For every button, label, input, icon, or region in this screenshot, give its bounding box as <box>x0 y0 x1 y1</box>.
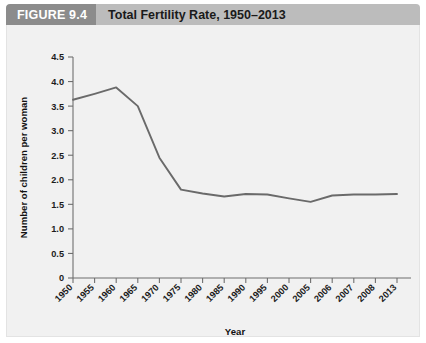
y-tick-label: 2.0 <box>51 175 64 185</box>
x-tick-label: 1990 <box>226 282 248 304</box>
y-axis-title: Number of children per woman <box>18 97 29 238</box>
y-tick-label: 3.5 <box>51 102 64 112</box>
figure-title: Total Fertility Rate, 1950–2013 <box>96 8 286 22</box>
x-tick-label: 1995 <box>247 282 269 304</box>
y-tick-label: 4.0 <box>51 77 64 87</box>
y-tick-label: 0 <box>59 273 64 283</box>
x-tick-label: 2006 <box>312 282 334 304</box>
x-tick-label: 2000 <box>269 282 291 304</box>
figure-header-bar: FIGURE 9.4 Total Fertility Rate, 1950–20… <box>6 4 420 25</box>
y-tick-label: 3.0 <box>51 126 64 136</box>
y-tick-label: 2.5 <box>51 151 64 161</box>
x-tick-label: 2007 <box>334 282 356 304</box>
y-tick-label: 1.5 <box>51 200 64 210</box>
x-tick-label: 1960 <box>96 282 118 304</box>
x-tick-label: 1950 <box>53 282 75 304</box>
x-axis-title: Year <box>225 326 246 337</box>
figure-body: 00.51.01.52.02.53.03.54.04.5 19501955196… <box>6 25 420 337</box>
x-tick-label: 2008 <box>355 282 377 304</box>
data-line-total-fertility-rate <box>73 87 397 201</box>
x-tick-label: 1965 <box>118 282 140 304</box>
x-tick-label: 1970 <box>139 282 161 304</box>
x-tick-label: 2005 <box>290 282 312 304</box>
y-tick-label: 0.5 <box>51 249 64 259</box>
x-tick-label: 2013 <box>377 282 399 304</box>
x-tick-label: 1985 <box>204 282 226 304</box>
y-axis: 00.51.01.52.02.53.03.54.04.5 <box>51 52 73 283</box>
x-tick-label: 1955 <box>74 282 96 304</box>
x-axis: 1950195519601965197019751980198519901995… <box>53 278 411 304</box>
x-tick-label: 1975 <box>161 282 183 304</box>
x-tick-label: 1980 <box>182 282 204 304</box>
data-series-group <box>73 87 397 201</box>
figure-container: FIGURE 9.4 Total Fertility Rate, 1950–20… <box>0 0 426 343</box>
chart-plot-area: 00.51.01.52.02.53.03.54.04.5 19501955196… <box>7 25 421 337</box>
y-tick-label: 1.0 <box>51 224 64 234</box>
line-chart: 00.51.01.52.02.53.03.54.04.5 19501955196… <box>7 25 421 337</box>
figure-number-label: FIGURE 9.4 <box>6 4 96 25</box>
y-tick-label: 4.5 <box>51 52 64 62</box>
